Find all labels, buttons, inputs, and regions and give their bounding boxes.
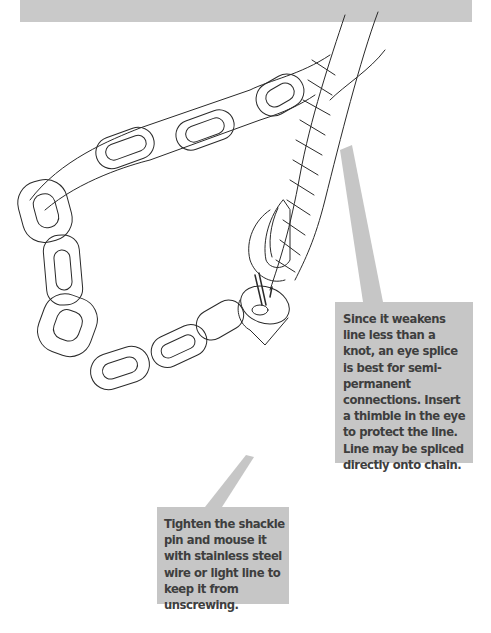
eye-splice-callout-text: Since it weakens line less than a knot, … bbox=[343, 312, 465, 472]
shackle-pin-callout-text: Tighten the shackle pin and mouse it wit… bbox=[164, 517, 285, 612]
callout-pointer-2 bbox=[205, 455, 254, 507]
shackle-pin-callout: Tighten the shackle pin and mouse it wit… bbox=[157, 507, 289, 604]
eye-splice-callout: Since it weakens line less than a knot, … bbox=[335, 302, 473, 463]
callout-pointer-1 bbox=[340, 145, 383, 302]
chain-links bbox=[13, 68, 310, 395]
